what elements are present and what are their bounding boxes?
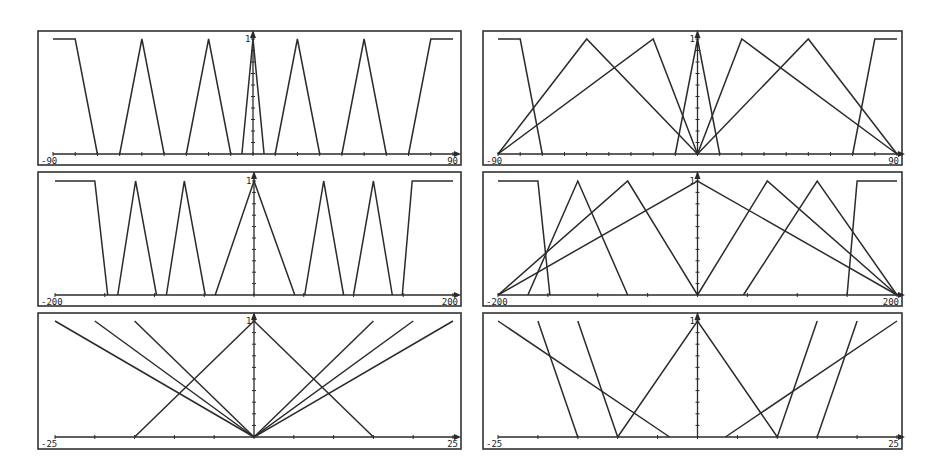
membership-function-ns xyxy=(498,39,698,154)
membership-function-nm xyxy=(95,321,254,437)
panels-group: -90901-90901-2002001-2002001-25251-25251 xyxy=(38,30,905,449)
membership-function-pb xyxy=(254,321,453,437)
membership-function-nb xyxy=(55,181,108,295)
x-min-label: -25 xyxy=(41,439,57,449)
membership-function-nm xyxy=(538,321,578,437)
membership-function-nm xyxy=(120,39,164,154)
x-max-label: 200 xyxy=(883,297,899,307)
panel-frame xyxy=(38,313,461,449)
membership-function-pm xyxy=(817,321,857,437)
membership-function-nb xyxy=(55,321,254,437)
membership-function-pb xyxy=(402,181,453,295)
y-max-label: 1 xyxy=(246,176,251,186)
membership-function-ns xyxy=(166,181,205,295)
membership-function-ps xyxy=(698,39,898,154)
chart-panel-middle-left: -2002001 xyxy=(38,171,461,307)
membership-function-nb xyxy=(53,39,97,154)
y-max-label: 1 xyxy=(690,316,695,326)
membership-function-pm xyxy=(698,39,898,154)
x-max-label: 200 xyxy=(442,297,458,307)
x-max-label: 90 xyxy=(888,156,899,166)
x-min-label: -200 xyxy=(486,297,508,307)
membership-function-figure: -90901-90901-2002001-2002001-25251-25251 xyxy=(0,0,943,466)
membership-function-pm xyxy=(743,181,897,295)
membership-function-nm xyxy=(528,181,628,295)
panel-frame xyxy=(483,313,902,449)
membership-function-ns xyxy=(186,39,231,154)
panel-frame xyxy=(483,31,902,165)
membership-function-nb xyxy=(498,181,550,295)
membership-function-pm xyxy=(342,39,386,154)
x-max-label: 90 xyxy=(447,156,458,166)
membership-function-pb xyxy=(409,39,453,154)
chart-panel-top-right: -90901 xyxy=(483,30,905,166)
membership-function-pm xyxy=(354,181,393,295)
chart-panel-bottom-right: -25251 xyxy=(483,312,905,449)
y-max-label: 1 xyxy=(690,34,695,44)
x-max-label: 25 xyxy=(447,439,458,449)
x-min-label: -200 xyxy=(41,297,63,307)
membership-function-ps xyxy=(305,181,344,295)
x-min-label: -90 xyxy=(486,156,502,166)
membership-function-nm xyxy=(498,39,698,154)
chart-panel-middle-right: -2002001 xyxy=(483,171,905,307)
membership-function-nm xyxy=(118,181,157,295)
membership-function-pb xyxy=(847,181,897,295)
x-min-label: -90 xyxy=(41,156,57,166)
membership-function-ps xyxy=(275,39,320,154)
chart-panel-bottom-left: -25251 xyxy=(38,312,461,449)
x-min-label: -25 xyxy=(486,439,502,449)
panel-frame xyxy=(38,31,461,165)
x-max-label: 25 xyxy=(888,439,899,449)
membership-function-pm xyxy=(254,321,413,437)
chart-panel-top-left: -90901 xyxy=(38,30,461,166)
y-max-label: 1 xyxy=(245,34,250,44)
